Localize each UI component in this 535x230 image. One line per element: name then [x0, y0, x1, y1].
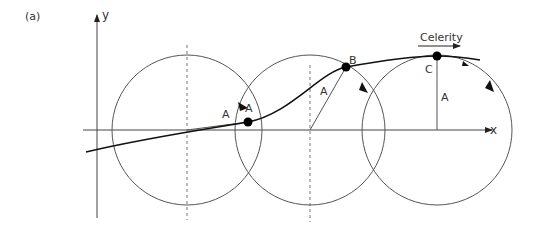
radius-line-b: [310, 67, 346, 130]
radius-label-2: A: [320, 86, 328, 97]
arc-arrow-3: [485, 80, 494, 92]
wave-crest: [86, 67, 346, 152]
free-surface: [86, 56, 480, 152]
radius-label-1: A: [222, 109, 230, 120]
wave-surface: [86, 67, 346, 152]
surface-line: [86, 68, 346, 152]
radius-label-3: A: [441, 92, 449, 103]
point-a-label: A: [245, 103, 253, 114]
x-axis-label: x: [490, 124, 497, 136]
arc-arrow-2: [359, 82, 368, 93]
wave-profile: [86, 56, 480, 152]
wave-surface-curve: [86, 67, 346, 152]
point-c-label: C: [425, 64, 433, 75]
wave-main-line: [86, 67, 346, 152]
surface-curve: [86, 56, 480, 152]
celerity-label: Celerity: [420, 32, 463, 43]
wave-line: [86, 56, 480, 152]
panel-label: (a): [25, 11, 40, 22]
point-b-label: B: [349, 55, 357, 66]
wave-curve: [86, 56, 480, 152]
point-c: [433, 52, 442, 61]
wave-profile-line: [86, 56, 480, 152]
y-axis-label: y: [102, 9, 109, 21]
water-surface-line: [86, 68, 346, 152]
point-a: [244, 118, 253, 127]
surface: [86, 67, 346, 152]
